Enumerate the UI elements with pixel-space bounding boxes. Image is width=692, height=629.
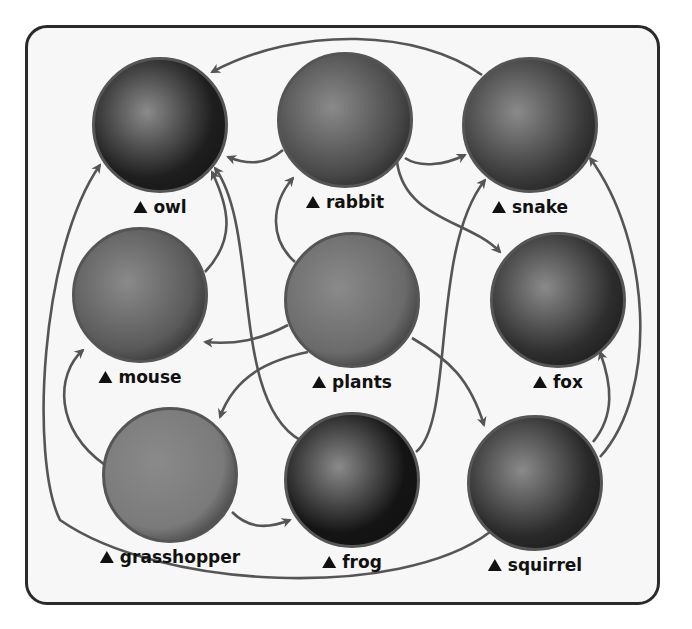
mouse-photo (72, 227, 208, 363)
plants-photo (284, 232, 420, 368)
arrow-plants-to-squirrel (412, 338, 484, 425)
node-label-text: fox (553, 372, 583, 392)
node-label-text: frog (342, 552, 382, 572)
triangle-icon (100, 551, 114, 563)
arrow-plants-to-rabbit (276, 178, 295, 262)
node-label-text: grasshopper (120, 547, 240, 567)
snake-label: snake (492, 197, 568, 217)
mouse-label: mouse (98, 367, 181, 387)
arrow-plants-to-mouse (205, 325, 288, 343)
frog-label: frog (322, 552, 382, 572)
arrow-squirrel-to-fox (593, 352, 609, 442)
owl-photo (92, 57, 228, 193)
node-label-text: snake (512, 197, 568, 217)
fox-photo (490, 232, 626, 368)
node-label-text: rabbit (326, 192, 384, 212)
arrow-rabbit-to-snake (405, 155, 465, 164)
triangle-icon (306, 196, 320, 208)
grasshopper-photo (102, 407, 238, 543)
arrow-grasshopper-to-frog (232, 512, 290, 526)
arrow-plants-to-grasshopper (220, 352, 308, 417)
node-label-text: mouse (118, 367, 181, 387)
triangle-icon (133, 201, 147, 213)
arrow-mouse-to-owl (205, 172, 227, 272)
node-label-text: plants (332, 372, 392, 392)
triangle-icon (98, 371, 112, 383)
squirrel-photo (467, 415, 603, 551)
triangle-icon (533, 376, 547, 388)
node-label-text: owl (153, 197, 186, 217)
snake-photo (462, 57, 598, 193)
plants-label: plants (312, 372, 392, 392)
owl-label: owl (133, 197, 186, 217)
arrow-rabbit-to-owl (228, 150, 283, 162)
node-label-text: squirrel (508, 555, 582, 575)
rabbit-label: rabbit (306, 192, 384, 212)
frog-photo (284, 412, 420, 548)
squirrel-label: squirrel (488, 555, 582, 575)
rabbit-photo (277, 52, 413, 188)
fox-label: fox (533, 372, 583, 392)
triangle-icon (312, 376, 326, 388)
triangle-icon (322, 556, 336, 568)
triangle-icon (492, 201, 506, 213)
grasshopper-label: grasshopper (100, 547, 240, 567)
triangle-icon (488, 559, 502, 571)
